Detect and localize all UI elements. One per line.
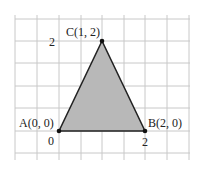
vertex-c-label: C(1, 2) <box>66 25 100 39</box>
vertex-b-label: B(2, 0) <box>148 116 182 130</box>
vertex-a-point <box>57 129 62 134</box>
vertex-b-point <box>143 129 148 134</box>
origin-label: 0 <box>48 134 54 148</box>
vertex-a-label: A(0, 0) <box>19 116 54 130</box>
coordinate-diagram: C(1, 2) A(0, 0) B(2, 0) 2 0 2 <box>0 0 201 174</box>
y-tick-label: 2 <box>49 35 55 49</box>
vertex-c-point <box>100 39 105 44</box>
x-tick-label: 2 <box>142 135 148 149</box>
